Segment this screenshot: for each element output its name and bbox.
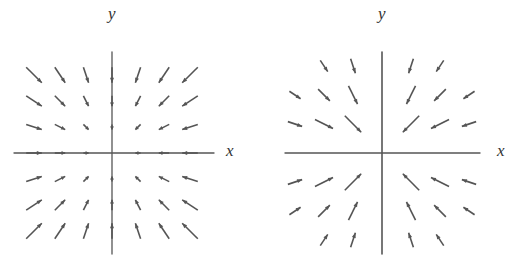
vector-arrow <box>159 67 169 83</box>
left-vector-field-plot <box>0 0 264 263</box>
vector-arrow <box>289 207 300 214</box>
vector-arrow <box>436 60 443 71</box>
vector-arrow <box>110 176 114 181</box>
vector-arrow <box>83 96 88 106</box>
vector-arrow <box>434 89 446 101</box>
vector-arrow <box>26 151 42 155</box>
vector-arrow <box>434 205 446 217</box>
vector-arrow <box>403 174 419 190</box>
vector-arrow <box>26 223 42 239</box>
vector-arrow <box>182 96 198 106</box>
vector-arrow <box>135 200 140 210</box>
vector-arrow <box>351 233 356 247</box>
vector-arrow <box>462 179 476 184</box>
vector-arrow <box>182 67 198 83</box>
vector-arrow <box>135 151 140 155</box>
vector-arrow <box>110 223 114 239</box>
vector-arrow <box>159 96 169 106</box>
vector-arrow <box>110 200 114 210</box>
vector-arrow <box>55 223 65 239</box>
vector-arrow <box>26 124 42 130</box>
vector-arrow <box>436 234 443 245</box>
vector-arrow <box>408 59 413 73</box>
vector-arrow <box>26 96 42 106</box>
vector-arrow <box>406 86 415 104</box>
right-x-axis-label: x <box>497 141 505 161</box>
vector-arrow <box>182 200 198 210</box>
vector-arrow <box>289 91 300 98</box>
vector-arrow <box>345 116 361 132</box>
vector-arrow <box>110 96 114 106</box>
vector-arrow <box>318 205 330 217</box>
vector-arrow <box>55 96 65 106</box>
left-x-axis-label: x <box>226 141 234 161</box>
vector-arrow <box>406 202 415 220</box>
vector-arrow <box>110 67 114 83</box>
right-vector-field-plot <box>265 0 529 263</box>
vector-arrow <box>159 151 169 155</box>
vector-arrow <box>110 124 114 129</box>
vector-arrow <box>135 176 140 181</box>
vector-arrow <box>55 200 65 210</box>
vector-arrow <box>159 200 169 210</box>
vector-arrow <box>348 202 357 220</box>
vector-arrow <box>345 174 361 190</box>
vector-arrow <box>159 176 169 181</box>
vector-arrow <box>403 116 419 132</box>
vector-arrow <box>135 223 141 239</box>
vector-arrow <box>318 89 330 101</box>
vector-arrow <box>463 91 474 98</box>
vector-arrow <box>320 234 327 245</box>
vector-arrow <box>83 223 89 239</box>
vector-arrow <box>83 200 88 210</box>
vector-arrow <box>288 122 302 127</box>
right-y-axis-label: y <box>378 4 386 24</box>
left-y-axis-label: y <box>108 4 116 24</box>
vector-arrow <box>83 67 89 83</box>
vector-arrow <box>288 179 302 184</box>
vector-arrow <box>83 151 88 155</box>
vector-arrow <box>135 67 141 83</box>
vector-arrow <box>182 223 198 239</box>
vector-arrow <box>55 67 65 83</box>
vector-arrow <box>351 59 356 73</box>
vector-arrow <box>182 151 198 155</box>
vector-arrow <box>26 200 42 210</box>
vector-arrow <box>348 86 357 104</box>
right-vector-field: y x <box>265 0 529 263</box>
vector-arrow <box>55 151 65 155</box>
vector-arrow <box>315 177 333 186</box>
vector-arrow <box>55 124 65 129</box>
vector-arrow <box>83 124 88 129</box>
vector-arrow <box>315 119 333 128</box>
vector-arrow <box>159 223 169 239</box>
vector-arrow <box>431 177 449 186</box>
vector-arrow <box>55 176 65 181</box>
vector-arrow <box>182 176 198 182</box>
vector-arrow <box>26 176 42 182</box>
vector-arrow <box>182 124 198 130</box>
vector-arrow <box>408 233 413 247</box>
vector-arrow <box>462 122 476 127</box>
vector-arrow <box>159 124 169 129</box>
vector-arrow <box>320 60 327 71</box>
vector-arrow <box>26 67 42 83</box>
vector-arrow <box>83 176 88 181</box>
vector-arrow <box>135 96 140 106</box>
left-vector-field: y x <box>0 0 264 263</box>
vector-arrow <box>135 124 140 129</box>
vector-arrow <box>463 207 474 214</box>
vector-arrow <box>431 119 449 128</box>
